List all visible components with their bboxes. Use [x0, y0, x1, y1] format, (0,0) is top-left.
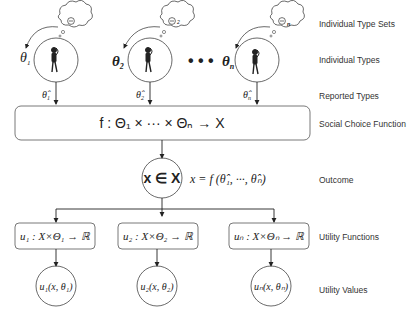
- label-types: Individual Types: [319, 55, 380, 65]
- ellipsis: • • •: [188, 52, 214, 69]
- label-type-sets: Individual Type Sets: [319, 19, 395, 29]
- type-theta-1: θ1: [20, 50, 30, 67]
- utility-function-n: uₙ : X×Θₙ → ℝ: [234, 230, 305, 242]
- person-icon: [253, 50, 260, 75]
- scf-formula: f : Θ₁ × ··· × Θₙ → X: [99, 115, 225, 131]
- utility-value-2: u₂(x, θ₂): [141, 281, 175, 293]
- agent-2: 2 θ2 θ̂2: [112, 0, 194, 104]
- label-outcome: Outcome: [319, 175, 354, 185]
- utility-function-2: u₂ : X×Θ₂ → ℝ: [123, 230, 194, 242]
- reported-type-n: θ̂n: [243, 89, 252, 101]
- label-utility-functions: Utility Functions: [319, 232, 379, 242]
- utility-value-n: uₙ(x, θₙ): [254, 281, 289, 293]
- person-icon: [146, 48, 153, 73]
- label-scf: Social Choice Function: [319, 119, 406, 129]
- type-theta-n: θn: [222, 53, 235, 71]
- outcome-formula: x = f (θ̂₁, ···, θ̂ₙ): [189, 172, 266, 186]
- reported-type-2: θ̂2: [136, 89, 145, 101]
- person-icon: [52, 48, 59, 73]
- mechanism-diagram: θ1 θ̂1 2 θ2 θ̂2 • • • n: [0, 0, 412, 314]
- utility-value-1: u₁(x, θ₁): [40, 281, 74, 293]
- agent-1: θ1 θ̂1: [20, 0, 92, 104]
- type-theta-2: θ2: [112, 53, 124, 71]
- agent-n: n θn θ̂n: [222, 0, 304, 104]
- svg-text:2: 2: [176, 19, 180, 25]
- utility-function-1: u₁ : X×Θ₁ → ℝ: [20, 230, 91, 242]
- outcome-node: x ∈ X: [144, 170, 182, 186]
- label-utility-values: Utility Values: [319, 285, 368, 295]
- label-reported: Reported Types: [319, 91, 379, 101]
- thought-bubble: [58, 0, 92, 27]
- reported-type-1: θ̂1: [42, 89, 51, 101]
